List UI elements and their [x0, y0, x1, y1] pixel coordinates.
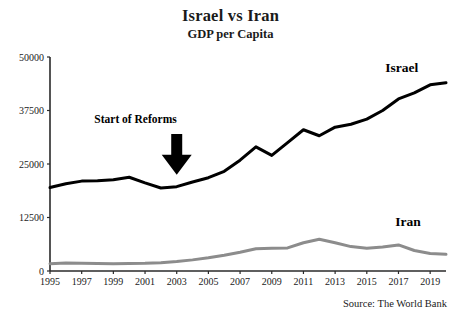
x-tick-label: 1997: [72, 276, 92, 287]
x-tick-label: 2011: [294, 276, 314, 287]
x-tick-label: 2001: [135, 276, 155, 287]
down-arrow-icon: [162, 134, 192, 175]
series-label-israel: Israel: [385, 60, 418, 75]
series-line-israel: [50, 83, 446, 188]
y-tick-label: 0: [39, 266, 44, 277]
chart-plot-area: 012500250003750050000 199519971999200120…: [0, 0, 461, 324]
y-tick-label: 37500: [19, 105, 44, 116]
chart-figure: Israel vs Iran GDP per Capita 0125002500…: [0, 0, 461, 324]
source-note: Source: The World Bank: [343, 298, 447, 309]
x-tick-label: 1999: [103, 276, 123, 287]
y-tick-label: 25000: [19, 159, 44, 170]
series-labels-group: IsraelIran: [385, 60, 421, 229]
y-tick-label: 50000: [19, 52, 44, 63]
x-tick-label: 2007: [230, 276, 250, 287]
annotation-text: Start of Reforms: [94, 113, 177, 125]
series-label-iran: Iran: [395, 214, 421, 229]
x-tick-label: 2015: [357, 276, 377, 287]
x-tick-label: 2005: [198, 276, 218, 287]
x-tick-label: 1995: [40, 276, 60, 287]
series-line-iran: [50, 239, 446, 263]
x-tick-label: 2019: [420, 276, 440, 287]
annotation-group: Start of Reforms: [94, 113, 191, 174]
x-tick-label: 2013: [325, 276, 345, 287]
x-tick-label: 2017: [388, 276, 408, 287]
y-tick-label: 12500: [19, 212, 44, 223]
x-axis-ticks: 1995199719992001200320052007200920112013…: [40, 271, 440, 287]
data-series-group: [50, 83, 446, 264]
y-axis-ticks: 012500250003750050000: [19, 52, 50, 277]
x-tick-label: 2003: [167, 276, 187, 287]
x-tick-label: 2009: [262, 276, 282, 287]
